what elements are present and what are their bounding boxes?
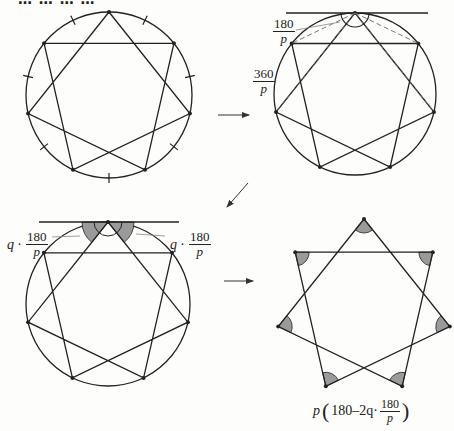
formula-p: p <box>313 403 320 419</box>
formula-body: 180–2q· <box>331 403 378 419</box>
vertex-dot <box>362 217 366 221</box>
vertex-dot <box>186 320 190 324</box>
heptagram-star <box>28 222 188 378</box>
arc-division-tick <box>40 144 48 150</box>
vertex-dot <box>172 41 176 45</box>
label-inscribed-angle-180-over-p: 180 p <box>273 17 295 45</box>
leader-line-left <box>52 236 80 237</box>
vertex-dot <box>276 325 280 329</box>
panel-1-circle-with-star <box>23 10 195 183</box>
heptagram-star <box>276 13 434 167</box>
angle-sum-formula: p ( 180–2q· 180 p ) <box>313 398 409 424</box>
label-left-180-over-p: 180 p <box>26 230 48 258</box>
vertex-dot <box>142 376 146 380</box>
vertex-dot <box>26 111 30 115</box>
formula-close-paren: ) <box>402 400 409 422</box>
vertex-dot <box>70 376 74 380</box>
vertex-dot <box>448 325 452 329</box>
dashed-chord <box>355 13 418 43</box>
vertex-dot <box>400 384 404 388</box>
arc-division-tick <box>170 144 178 150</box>
heptagram-star <box>28 12 190 170</box>
vertex-dot <box>71 168 75 172</box>
panel-4-star-angles <box>276 217 452 388</box>
formula-fraction: 180 p <box>380 398 400 424</box>
vertex-dot <box>107 10 111 14</box>
label-left-q-coef: q · <box>7 238 21 252</box>
heptagram-star <box>278 219 450 386</box>
vertex-dot <box>293 250 297 254</box>
leader-line <box>296 22 340 30</box>
panel-3-tangent-angles <box>26 220 190 386</box>
vertex-dot <box>318 165 322 169</box>
vertex-dot <box>431 250 435 254</box>
flow-arrows <box>218 115 253 281</box>
label-arc-angle-360-over-p: 360 p <box>253 67 275 95</box>
vertex-dot <box>388 165 392 169</box>
formula-open-paren: ( <box>322 400 329 422</box>
label-right-q-coef: q · <box>170 238 184 252</box>
arrow-diagonal <box>227 183 248 207</box>
panel-2-tangent-construction <box>274 11 436 175</box>
dashed-chord <box>292 13 355 43</box>
vertex-dot <box>324 384 328 388</box>
vertex-dot <box>26 320 30 324</box>
label-right-180-over-p: 180 p <box>189 230 211 258</box>
diagram-canvas <box>0 0 454 431</box>
vertex-dot <box>42 41 46 45</box>
vertex-dot <box>143 168 147 172</box>
vertex-dot <box>188 111 192 115</box>
